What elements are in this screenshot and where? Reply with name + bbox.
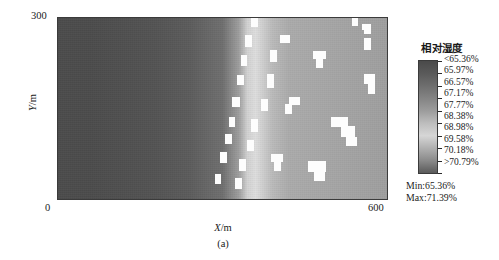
colorbar-tick-label: <65.36% xyxy=(444,54,499,65)
colorbar-tick xyxy=(438,111,442,112)
colorbar-tick-labels: <65.36%65.97%66.57%67.17%67.77%68.38%68.… xyxy=(444,54,499,168)
figure-panel: 300 0 600 Y/m X/m (a) 相对湿度 <65.36%65.97%… xyxy=(0,0,499,260)
colorbar-tick xyxy=(438,148,442,149)
y-axis-min-tick-label: 0 xyxy=(45,203,50,214)
y-axis-title: Y/m xyxy=(27,83,38,123)
colorbar xyxy=(418,60,438,174)
colorbar-tick-label: 70.18% xyxy=(444,145,499,156)
colorbar-tick xyxy=(438,61,442,62)
colorbar-tick xyxy=(438,136,442,137)
legend-stats: Min:65.36% Max:71.39% xyxy=(406,180,498,203)
y-axis-title-variable: Y xyxy=(27,105,38,111)
colorbar-tick-label: 68.38% xyxy=(444,111,499,122)
x-axis-title: X/m xyxy=(0,222,446,233)
heatmap-border xyxy=(57,17,388,200)
legend: 相对湿度 <65.36%65.97%66.57%67.17%67.77%68.3… xyxy=(406,40,498,203)
colorbar-tick-label: 69.58% xyxy=(444,134,499,145)
figure-caption: (a) xyxy=(0,238,446,249)
legend-body: <65.36%65.97%66.57%67.17%67.77%68.38%68.… xyxy=(406,60,498,176)
colorbar-tick-label: 68.98% xyxy=(444,122,499,133)
x-axis-title-unit: /m xyxy=(221,222,232,233)
colorbar-tick-label: >70.79% xyxy=(444,157,499,168)
colorbar-tick-label: 67.17% xyxy=(444,88,499,99)
legend-title: 相对湿度 xyxy=(410,40,474,55)
heatmap-plot-area xyxy=(57,17,388,200)
colorbar-tick-label: 66.57% xyxy=(444,77,499,88)
colorbar-tick xyxy=(438,73,442,74)
colorbar-tick xyxy=(438,173,442,174)
y-axis-max-tick-label: 300 xyxy=(31,11,47,22)
x-axis-max-tick-label: 600 xyxy=(368,203,384,214)
colorbar-tick xyxy=(438,98,442,99)
colorbar-tick-label: 67.77% xyxy=(444,100,499,111)
colorbar-tick xyxy=(438,86,442,87)
y-axis-title-unit: /m xyxy=(27,94,38,105)
colorbar-tick xyxy=(438,161,442,162)
colorbar-tick xyxy=(438,123,442,124)
legend-max-value: Max:71.39% xyxy=(406,192,498,204)
colorbar-tick-label: 65.97% xyxy=(444,65,499,76)
legend-min-value: Min:65.36% xyxy=(406,180,498,192)
